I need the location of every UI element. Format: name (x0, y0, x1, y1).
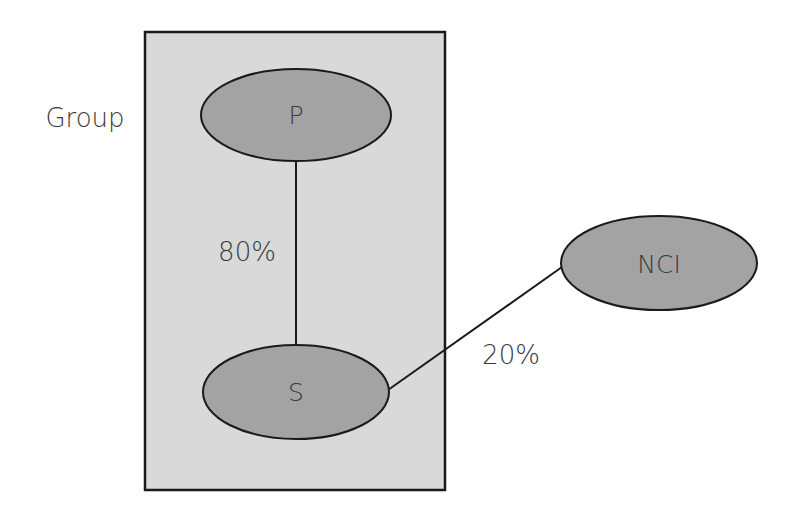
node-s: S (203, 345, 389, 439)
node-p: P (201, 69, 391, 161)
ownership-diagram: Group P S NCI 80% 20% (0, 0, 798, 515)
node-p-label: P (288, 101, 303, 130)
group-label: Group (45, 103, 124, 133)
node-s-label: S (288, 378, 304, 407)
edge-label-s-nci: 20% (482, 340, 540, 370)
node-nci: NCI (561, 216, 757, 310)
edge-label-p-s: 80% (218, 237, 276, 267)
node-nci-label: NCI (637, 250, 681, 279)
